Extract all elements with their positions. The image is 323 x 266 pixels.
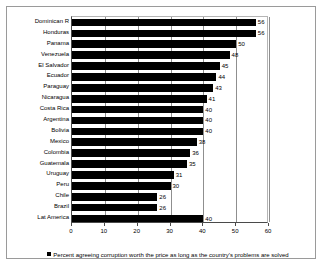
bar-row: 35 <box>72 160 267 168</box>
x-axis-tick-label: 20 <box>133 227 140 235</box>
bar-value-label: 38 <box>197 139 206 146</box>
bar-row: 40 <box>72 117 267 125</box>
bar <box>72 73 216 81</box>
bar-row: 41 <box>72 95 267 103</box>
x-axis-tick-label: 0 <box>69 227 72 235</box>
x-axis-tick <box>202 223 203 226</box>
x-axis-tick-label: 10 <box>100 227 107 235</box>
bar-row: 45 <box>72 62 267 70</box>
bar-value-label: 40 <box>203 117 212 124</box>
bar-row: 38 <box>72 138 267 146</box>
x-axis-tick-label: 30 <box>166 227 173 235</box>
bar-value-label: 31 <box>174 171 183 178</box>
x-axis-tick-label: 50 <box>232 227 239 235</box>
x-axis-tick-label: 40 <box>199 227 206 235</box>
bar <box>72 204 157 212</box>
bar-value-label: 40 <box>203 215 212 222</box>
bar-value-label: 40 <box>203 128 212 135</box>
x-axis-tick-label: 60 <box>265 227 272 235</box>
category-label: Chile <box>55 192 69 199</box>
x-axis-tick <box>104 223 105 226</box>
legend-item: Percent agreeing corruption worth the pr… <box>47 251 288 259</box>
bar-value-label: 41 <box>207 95 216 102</box>
bar-value-label: 56 <box>256 19 265 26</box>
bar-row: 50 <box>72 40 267 48</box>
category-label: Bolivia <box>51 127 69 134</box>
bar <box>72 171 174 179</box>
category-label: Ecuador <box>47 72 69 79</box>
bar-value-label: 35 <box>187 161 196 168</box>
bar <box>72 128 203 136</box>
bar <box>72 84 213 92</box>
bar-value-label: 44 <box>216 73 225 80</box>
bar-value-label: 43 <box>213 84 222 91</box>
bar-row: 30 <box>72 182 267 190</box>
bar-value-label: 36 <box>190 150 199 157</box>
bar-row: 31 <box>72 171 267 179</box>
category-label: Nicaragua <box>42 94 69 101</box>
bar-value-label: 50 <box>236 41 245 48</box>
bar-row: 26 <box>72 193 267 201</box>
bar <box>72 117 203 125</box>
x-axis-tick <box>235 223 236 226</box>
bar-row: 43 <box>72 84 267 92</box>
x-axis: 0102030405060 <box>71 223 268 239</box>
category-label: Colombia <box>44 149 69 156</box>
bar-value-label: 45 <box>220 63 229 70</box>
category-label: Brazil <box>54 203 69 210</box>
category-label: Honduras <box>43 29 69 36</box>
category-axis-labels: Dominican RHondurasPanamaVenezuelaEl Sal… <box>15 16 69 223</box>
bar-row: 40 <box>72 106 267 114</box>
bar <box>72 193 157 201</box>
x-axis-tick <box>137 223 138 226</box>
bar-value-label: 26 <box>157 193 166 200</box>
bar-value-label: 56 <box>256 30 265 37</box>
bar <box>72 62 220 70</box>
bar <box>72 182 171 190</box>
category-label: Mexico <box>50 138 69 145</box>
chart-frame: Dominican RHondurasPanamaVenezuelaEl Sal… <box>6 6 316 259</box>
bar <box>72 160 187 168</box>
square-swatch-icon <box>47 252 51 256</box>
bar-rows: 56565048454443414040403836353130262640 <box>72 17 267 222</box>
category-label: Argentina <box>43 116 69 123</box>
bar-row: 40 <box>72 215 267 223</box>
bar-row: 36 <box>72 149 267 157</box>
bar <box>72 51 230 59</box>
category-label: Panama <box>47 40 69 47</box>
legend-label: Percent agreeing corruption worth the pr… <box>53 252 288 258</box>
bar-row: 26 <box>72 204 267 212</box>
bar-value-label: 30 <box>171 182 180 189</box>
bar-row: 56 <box>72 19 267 27</box>
category-label: Guatemala <box>40 160 69 167</box>
bar <box>72 138 197 146</box>
bar-row: 56 <box>72 30 267 38</box>
category-label: Lat America <box>37 214 69 221</box>
category-label: Venezuela <box>41 51 69 58</box>
bar-value-label: 26 <box>157 204 166 211</box>
category-label: Paraguay <box>43 83 69 90</box>
bar-row: 40 <box>72 128 267 136</box>
bar-chart: Dominican RHondurasPanamaVenezuelaEl Sal… <box>0 0 323 266</box>
bar-row: 48 <box>72 51 267 59</box>
category-label: Costa Rica <box>40 105 69 112</box>
category-label: Uruguay <box>46 170 69 177</box>
plot-area: 56565048454443414040403836353130262640 <box>71 16 268 223</box>
gridline <box>269 17 270 222</box>
bar <box>72 106 203 114</box>
bar <box>72 149 190 157</box>
category-label: Dominican R <box>35 18 69 25</box>
x-axis-tick <box>268 223 269 226</box>
bar <box>72 95 207 103</box>
x-axis-tick <box>170 223 171 226</box>
bar <box>72 30 256 38</box>
x-axis-tick <box>71 223 72 226</box>
category-label: Peru <box>56 181 69 188</box>
bar-value-label: 40 <box>203 106 212 113</box>
bar-value-label: 48 <box>230 52 239 59</box>
chart-legend: Percent agreeing corruption worth the pr… <box>14 243 322 261</box>
bar <box>72 215 203 223</box>
bar <box>72 19 256 27</box>
bar-row: 44 <box>72 73 267 81</box>
bar <box>72 40 236 48</box>
